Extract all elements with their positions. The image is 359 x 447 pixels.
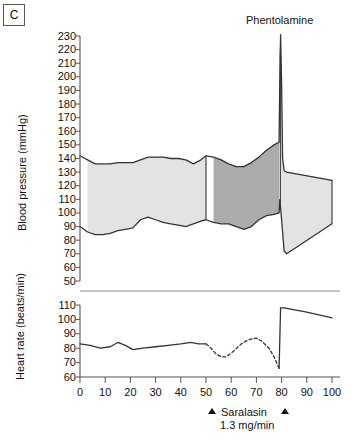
- hr-axis: [76, 305, 80, 377]
- x-tick-label: 30: [142, 387, 170, 398]
- x-tick-label: 40: [167, 387, 195, 398]
- hr-tick-label: 110: [44, 300, 76, 311]
- bp-tick-label: 200: [44, 71, 76, 82]
- hr-tick-label: 60: [44, 372, 76, 383]
- bp-tick-label: 80: [44, 235, 76, 246]
- x-tick-label: 20: [116, 387, 144, 398]
- x-tick-label: 100: [318, 387, 346, 398]
- bp-band-baseline: [88, 156, 206, 235]
- bp-axis-title: Blood pressure (mmHg): [16, 88, 28, 258]
- hr-traces: [80, 308, 332, 368]
- x-tick-label: 80: [268, 387, 296, 398]
- bp-band-saralasin: [214, 142, 280, 229]
- bp-band-post-phentolamine: [280, 35, 332, 254]
- x-tick-label: 70: [242, 387, 270, 398]
- saralasin-annotation: Saralasin: [221, 406, 267, 419]
- x-tick-label: 10: [91, 387, 119, 398]
- bp-tick-marks: [76, 36, 80, 281]
- hr-tick-marks: [76, 305, 80, 377]
- bp-tick-label: 140: [44, 153, 76, 164]
- hr-trace-post-phentolamine: [279, 308, 332, 368]
- bp-tick-label: 190: [44, 85, 76, 96]
- bp-tick-label: 160: [44, 126, 76, 137]
- bp-tick-label: 210: [44, 58, 76, 69]
- figure-panel-c: C Blood pressure (mmHg) Heart rate (beat…: [0, 0, 359, 447]
- bp-tick-label: 100: [44, 207, 76, 218]
- bp-tick-label: 150: [44, 139, 76, 150]
- x-tick-label: 60: [217, 387, 245, 398]
- hr-tick-label: 100: [44, 314, 76, 325]
- phentolamine-annotation: Phentolamine: [246, 14, 313, 27]
- x-tick-label: 0: [66, 387, 94, 398]
- bp-tick-label: 130: [44, 167, 76, 178]
- bp-tick-label: 170: [44, 112, 76, 123]
- bp-tick-label: 70: [44, 248, 76, 259]
- x-tick-label: 90: [293, 387, 321, 398]
- hr-trace-baseline: [80, 342, 206, 349]
- hr-tick-label: 80: [44, 343, 76, 354]
- bp-tick-label: 50: [44, 276, 76, 287]
- x-tick-marks: [80, 377, 332, 383]
- saralasin-dose-annotation: 1.3 mg/min: [220, 419, 274, 432]
- x-tick-label: 50: [192, 387, 220, 398]
- bp-tick-label: 120: [44, 180, 76, 191]
- panel-label: C: [3, 4, 25, 26]
- bp-tick-label: 60: [44, 262, 76, 273]
- hr-tick-label: 70: [44, 357, 76, 368]
- bp-tick-label: 230: [44, 31, 76, 42]
- saralasin-end-triangle-icon: [281, 408, 289, 414]
- bp-tick-label: 220: [44, 44, 76, 55]
- hr-trace-saralasin: [206, 338, 279, 368]
- saralasin-start-triangle-icon: [208, 408, 216, 414]
- hr-axis-title: Heart rate (beats/min): [14, 296, 26, 380]
- bp-tick-label: 90: [44, 221, 76, 232]
- bp-tick-label: 180: [44, 99, 76, 110]
- bp-tick-label: 110: [44, 194, 76, 205]
- bp-axis: [76, 36, 80, 281]
- hr-tick-label: 90: [44, 328, 76, 339]
- x-axis: [80, 377, 340, 383]
